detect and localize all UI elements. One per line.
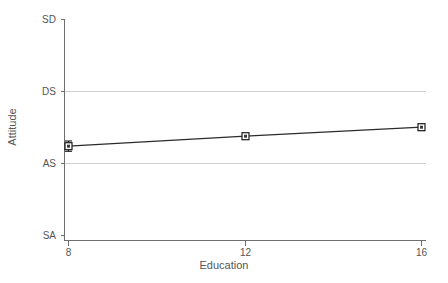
y-tick-label-as: AS [43,158,57,169]
y-tick-label-ds: DS [42,86,56,97]
x-tick-label-8: 8 [66,247,72,258]
data-point-16 [418,124,425,131]
y-tick-marks [61,20,65,236]
marker-inner-16 [420,126,423,129]
data-point-12 [242,133,249,140]
y-axis-title: Attitude [6,91,18,163]
chart-plot-area: SD DS AS SA 8 12 16 [0,0,448,283]
y-tick-label-sa: SA [43,230,57,241]
gridlines [65,92,426,164]
chart-container: SD DS AS SA 8 12 16 [0,0,448,283]
marker-inner-12 [244,135,247,138]
x-tick-marks [69,241,422,246]
x-axis-title: Education [0,259,448,271]
y-tick-label-sd: SD [42,14,56,25]
data-point-8 [65,141,72,151]
marker-inner-8 [67,145,70,148]
x-tick-label-16: 16 [416,247,428,258]
x-tick-label-12: 12 [240,247,252,258]
